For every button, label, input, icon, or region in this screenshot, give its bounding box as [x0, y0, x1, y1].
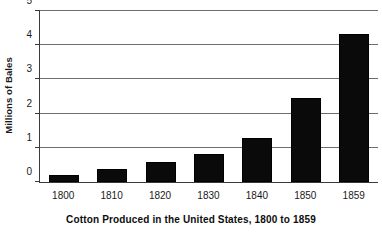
bar-chart-figure: Millions of Bales 012345 180018101820183…: [0, 0, 382, 236]
bar-slot-1820: [137, 11, 185, 182]
bar-1840: [242, 138, 272, 182]
bars-group: [40, 11, 378, 182]
y-tick-label-4: 4: [26, 30, 32, 40]
x-tick-label-1810: 1810: [87, 188, 135, 204]
bar-1850: [291, 98, 321, 182]
plot-area: 012345: [39, 11, 378, 183]
bar-1830: [194, 154, 224, 182]
bar-slot-1810: [88, 11, 136, 182]
y-tick-label-1: 1: [26, 133, 32, 143]
y-tick-label-3: 3: [26, 64, 32, 74]
y-tick-label-5: 5: [26, 0, 32, 6]
x-tick-label-1840: 1840: [233, 188, 281, 204]
x-axis-tick-labels: 1800181018201830184018501859: [39, 188, 378, 204]
bar-1859: [339, 34, 369, 182]
bar-1800: [49, 175, 79, 182]
bar-slot-1830: [185, 11, 233, 182]
x-tick-label-1850: 1850: [281, 188, 329, 204]
y-axis-title: Millions of Bales: [0, 0, 16, 190]
x-tick-label-1800: 1800: [39, 188, 87, 204]
chart-caption: Cotton Produced in the United States, 18…: [0, 214, 382, 225]
y-tick-label-2: 2: [26, 99, 32, 109]
y-axis-title-text: Millions of Bales: [3, 57, 14, 134]
x-tick-label-1820: 1820: [136, 188, 184, 204]
x-tick-label-1859: 1859: [330, 188, 378, 204]
bar-1810: [97, 169, 127, 182]
bar-slot-1840: [233, 11, 281, 182]
x-tick-label-1830: 1830: [184, 188, 232, 204]
bar-1820: [146, 162, 176, 182]
y-tick-label-0: 0: [26, 167, 32, 177]
bar-slot-1850: [281, 11, 329, 182]
bar-slot-1859: [330, 11, 378, 182]
bar-slot-1800: [40, 11, 88, 182]
